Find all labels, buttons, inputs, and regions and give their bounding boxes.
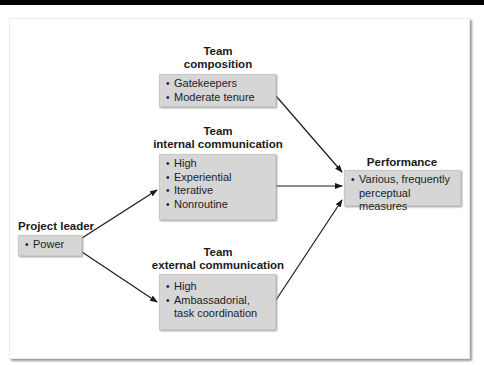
team-internal-title: Team internal communication: [148, 125, 288, 151]
team-composition-title: Team composition: [160, 45, 276, 71]
project-leader-title: Project leader: [18, 220, 118, 233]
project-leader-box: Power: [18, 235, 82, 256]
team-external-title-line1: Team: [148, 246, 288, 259]
team-internal-title-line2: internal communication: [148, 138, 288, 151]
team-external-box: High Ambassadorial, task coordination: [159, 274, 276, 330]
performance-box: Various, frequently perceptual measures: [344, 170, 461, 206]
list-item: Various, frequently perceptual measures: [351, 173, 454, 214]
list-item: Experiential: [166, 171, 269, 185]
list-item-line: Ambassadorial,: [174, 294, 250, 306]
team-composition-title-line1: Team: [160, 45, 276, 58]
arrow-leader-to-external: [82, 252, 157, 302]
team-external-title-line2: external communication: [148, 259, 288, 272]
list-item: Nonroutine: [166, 198, 269, 212]
list-item-line: task coordination: [174, 307, 257, 319]
list-item: Power: [25, 238, 75, 252]
team-internal-box: High Experiential Iterative Nonroutine: [159, 154, 276, 220]
list-item: High: [166, 280, 269, 294]
performance-title: Performance: [344, 156, 460, 169]
team-composition-box: Gatekeepers Moderate tenure: [159, 74, 276, 107]
list-item-line: Various, frequently: [359, 173, 450, 185]
list-item: Moderate tenure: [166, 91, 269, 105]
list-item: Iterative: [166, 184, 269, 198]
list-item: Ambassadorial, task coordination: [166, 294, 269, 321]
team-external-title: Team external communication: [148, 246, 288, 272]
list-item: High: [166, 157, 269, 171]
list-item: Gatekeepers: [166, 77, 269, 91]
team-composition-title-line2: composition: [160, 58, 276, 71]
list-item-line: perceptual measures: [359, 187, 410, 213]
team-internal-title-line1: Team: [148, 125, 288, 138]
